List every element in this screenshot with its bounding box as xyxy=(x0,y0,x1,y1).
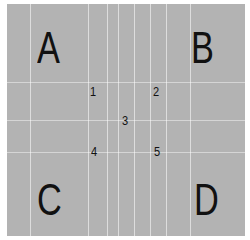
grid-line xyxy=(7,82,245,83)
corner-label-b: B xyxy=(191,26,214,70)
test-pattern-panel: A B C D 1 2 3 4 5 xyxy=(7,4,245,236)
grid-line xyxy=(7,152,245,153)
corner-label-c: C xyxy=(37,178,62,222)
number-label-1: 1 xyxy=(90,85,96,98)
number-label-3: 3 xyxy=(122,114,128,127)
corner-label-a: A xyxy=(37,26,60,70)
number-label-5: 5 xyxy=(154,145,160,158)
corner-label-d: D xyxy=(194,178,219,222)
number-label-2: 2 xyxy=(153,85,159,98)
number-label-4: 4 xyxy=(91,145,97,158)
